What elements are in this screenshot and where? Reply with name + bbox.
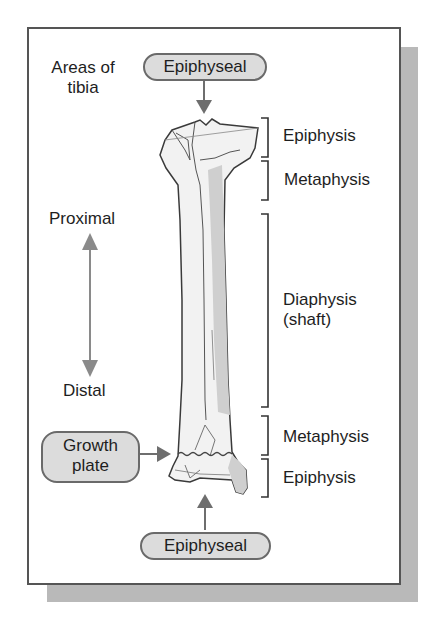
- distal-label: Distal: [63, 381, 106, 401]
- bracket-diaphysis: [261, 214, 268, 407]
- arrow-up-icon: [197, 494, 213, 508]
- region-brackets: [261, 118, 268, 497]
- bracket-epiphysis-distal: [261, 459, 268, 497]
- diagram-title: Areas of tibia: [36, 58, 130, 98]
- growth-plate-pill: Growth plate: [41, 431, 140, 483]
- arrow-right-icon: [157, 446, 171, 462]
- arrow-down-distal-icon: [82, 360, 98, 377]
- label-diaphysis: Diaphysis (shaft): [283, 290, 357, 330]
- arrow-down-icon: [196, 100, 212, 114]
- arrow-up-proximal-icon: [82, 233, 98, 250]
- label-metaphysis-proximal: Metaphysis: [284, 170, 370, 190]
- tibia-bone: [160, 119, 258, 494]
- label-epiphysis-proximal: Epiphysis: [283, 126, 356, 146]
- proximal-label: Proximal: [49, 209, 115, 229]
- label-epiphysis-distal: Epiphysis: [283, 468, 356, 488]
- bracket-metaphysis-proximal: [261, 161, 268, 200]
- bracket-epiphysis-proximal: [261, 118, 268, 157]
- epiphyseal-pill-top: Epiphyseal: [143, 53, 267, 81]
- epiphyseal-pill-bottom: Epiphyseal: [140, 532, 271, 560]
- bracket-metaphysis-distal: [261, 416, 268, 455]
- label-metaphysis-distal: Metaphysis: [283, 427, 369, 447]
